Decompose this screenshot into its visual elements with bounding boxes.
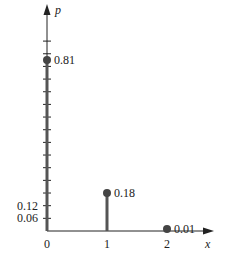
x-tick-label: 0	[44, 237, 50, 251]
y-tick-label: 0.12	[17, 199, 38, 213]
value-label: 0.18	[114, 186, 135, 200]
stem-dot	[103, 189, 111, 197]
x-axis-arrow-icon	[203, 228, 214, 235]
x-tick-labels: 012	[44, 237, 170, 251]
probability-stem-chart: p x 0.810.180.01 012 0.060.12	[0, 0, 225, 264]
value-label: 0.81	[54, 53, 75, 67]
stems: 0.810.180.01	[43, 53, 195, 236]
stem-dot	[43, 56, 51, 64]
y-axis-arrow-icon	[44, 4, 51, 15]
y-axis-label: p	[54, 3, 61, 17]
stem-dot	[163, 225, 171, 233]
x-axis-label: x	[204, 237, 211, 251]
x-tick-label: 1	[104, 237, 110, 251]
y-tick-label: 0.06	[17, 211, 38, 225]
value-label: 0.01	[174, 222, 195, 236]
y-tick-labels: 0.060.12	[17, 199, 38, 226]
x-tick-label: 2	[164, 237, 170, 251]
